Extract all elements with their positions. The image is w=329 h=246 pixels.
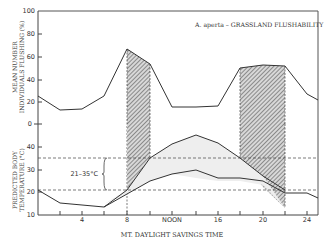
top-ytick-40: 40 bbox=[27, 76, 35, 84]
bottom-ytick-40: 40 bbox=[27, 143, 35, 151]
top-ytick-0: 0 bbox=[28, 120, 32, 128]
range-annotation: 21–35°C bbox=[70, 158, 107, 190]
bottom-ytick-30: 30 bbox=[27, 166, 35, 174]
svg-text:MEAN NUMBER: MEAN NUMBER bbox=[11, 41, 18, 93]
bottom-ytick-10: 10 bbox=[27, 211, 35, 219]
bottom-y-label: PREDICTED BODY TEMPERATURE (°C) bbox=[11, 148, 25, 212]
bottom-ytick-20: 20 bbox=[27, 188, 35, 196]
svg-text:INDIVIDUALS FLUSHING (%): INDIVIDUALS FLUSHING (%) bbox=[18, 21, 25, 113]
range-label: 21–35°C bbox=[70, 170, 98, 178]
top-ytick-100: 100 bbox=[23, 7, 35, 15]
svg-text:PREDICTED BODY: PREDICTED BODY bbox=[11, 150, 18, 209]
top-ytick-60: 60 bbox=[27, 53, 35, 61]
xtick-8: 8 bbox=[125, 216, 129, 224]
top-y-axis: 100 80 60 40 20 0 bbox=[23, 7, 42, 128]
xtick-4: 4 bbox=[80, 216, 84, 224]
xtick-16: 16 bbox=[214, 216, 222, 224]
chart-figure: 100 80 60 40 20 0 40 30 20 10 4 8 NOON 1… bbox=[0, 0, 329, 246]
top-ytick-80: 80 bbox=[27, 30, 35, 38]
xtick-20: 20 bbox=[259, 216, 267, 224]
x-axis-label: MT. DAYLIGHT SAVINGS TIME bbox=[121, 231, 224, 239]
x-axis: 4 8 NOON 16 20 24 bbox=[60, 211, 311, 224]
bottom-y-axis: 40 30 20 10 bbox=[27, 143, 42, 219]
xtick-24: 24 bbox=[303, 216, 311, 224]
xtick-noon: NOON bbox=[162, 216, 182, 224]
svg-text:TEMPERATURE (°C): TEMPERATURE (°C) bbox=[18, 148, 25, 212]
top-y-label: MEAN NUMBER INDIVIDUALS FLUSHING (%) bbox=[11, 21, 25, 113]
top-ytick-20: 20 bbox=[27, 98, 35, 106]
chart-title: A. aperta – GRASSLAND FLUSHABILITY bbox=[194, 21, 324, 29]
